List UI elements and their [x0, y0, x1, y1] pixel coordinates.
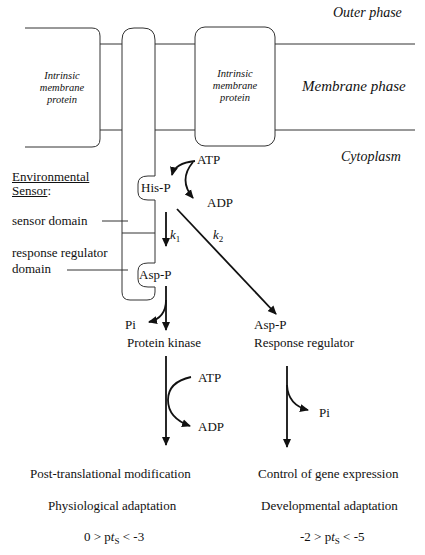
sensor-domain-label: sensor domain — [12, 214, 87, 228]
left-outcome-line2: Physiological adaptation — [48, 499, 176, 513]
left-protein-label-line1: Intrinsic — [22, 70, 102, 82]
right-protein-label: Intrinsic membrane protein — [195, 68, 275, 104]
left-protein-label: Intrinsic membrane protein — [22, 70, 102, 106]
adp-mid-label: ADP — [198, 420, 224, 434]
atp-mid-label: ATP — [198, 371, 221, 385]
response-regulator-label: Response regulator — [254, 336, 354, 350]
pi-release-arrow — [149, 300, 166, 322]
left-protein-label-line2: membrane — [22, 82, 102, 94]
environmental-sensor-title: Environmental Sensor: — [12, 170, 89, 198]
pi-right-label: Pi — [319, 406, 330, 420]
right-range-suffix: < -5 — [340, 529, 365, 544]
asp-p-rr-label: Asp-P — [254, 318, 287, 332]
sensor-title-colon: : — [47, 183, 51, 198]
adp-top-label: ADP — [207, 196, 233, 210]
rr-pi-curve — [287, 385, 308, 410]
left-range-prefix: 0 > p — [84, 529, 111, 544]
k2-sub: 2 — [219, 234, 224, 244]
asp-p-domain-label: Asp-P — [139, 268, 172, 282]
rr-domain-label-line2: domain — [12, 262, 51, 276]
cytoplasm-label: Cytoplasm — [341, 150, 401, 164]
right-protein-label-line2: membrane — [195, 80, 275, 92]
k2-label: k2 — [213, 228, 223, 246]
left-protein-label-line3: protein — [22, 94, 102, 106]
atp-top-label: ATP — [197, 153, 220, 167]
membrane-phase-label: Membrane phase — [302, 79, 406, 93]
outer-phase-label: Outer phase — [333, 6, 402, 20]
rr-domain-label-line1: response regulator — [12, 246, 108, 260]
right-range-prefix: -2 > p — [300, 529, 331, 544]
right-outcome-line2: Developmental adaptation — [261, 499, 398, 513]
right-protein-label-line3: protein — [195, 92, 275, 104]
k1-sub: 1 — [176, 234, 181, 244]
pi-left-label: Pi — [125, 318, 136, 332]
right-outcome-range: -2 > ptS < -5 — [300, 530, 364, 548]
right-protein-label-line1: Intrinsic — [195, 68, 275, 80]
kinase-atp-curve — [168, 377, 191, 426]
left-outcome-range: 0 > ptS < -3 — [84, 530, 144, 548]
left-range-suffix: < -3 — [119, 529, 144, 544]
sensor-title-line2: Sensor — [12, 183, 47, 198]
protein-kinase-label: Protein kinase — [127, 336, 201, 350]
sensor-title-line1: Environmental — [12, 170, 89, 184]
environmental-sensor-protein — [122, 28, 155, 300]
right-outcome-line1: Control of gene expression — [258, 467, 398, 481]
atp-to-adp-arrow — [186, 162, 194, 198]
k1-label: k1 — [170, 228, 180, 246]
k2-arrow — [177, 209, 276, 314]
his-p-label: His-P — [141, 181, 171, 195]
left-outcome-line1: Post-translational modification — [30, 467, 191, 481]
